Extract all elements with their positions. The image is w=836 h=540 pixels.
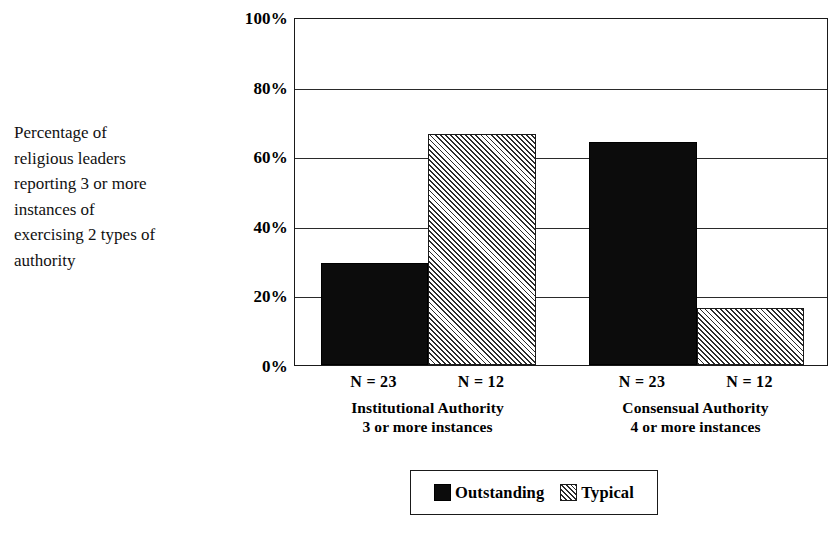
y-tick-0: 0% <box>214 358 288 375</box>
legend-label-outstanding: Outstanding <box>455 484 544 502</box>
group-label-institutional: Institutional Authority 3 or more instan… <box>300 398 555 436</box>
chart-legend: Outstanding Typical <box>410 470 658 515</box>
bar-institutional-outstanding[interactable] <box>321 263 428 365</box>
chart-page: Percentage of religious leaders reportin… <box>0 0 836 540</box>
y-tick-100: 100% <box>214 10 288 27</box>
group-label-consensual-line1: Consensual Authority <box>622 399 768 416</box>
group-label-institutional-line2: 3 or more instances <box>300 417 555 436</box>
bar-consensual-typical[interactable] <box>697 308 804 365</box>
group-label-consensual-line2: 4 or more instances <box>568 417 823 436</box>
legend-label-typical: Typical <box>581 484 634 502</box>
legend-entry-typical[interactable]: Typical <box>560 484 634 502</box>
y-tick-20: 20% <box>214 288 288 305</box>
legend-swatch-solid-icon <box>434 484 451 501</box>
bar-institutional-typical[interactable] <box>428 134 536 365</box>
y-tick-80: 80% <box>214 80 288 97</box>
legend-entry-outstanding[interactable]: Outstanding <box>434 484 544 502</box>
n-label-institutional-typical: N = 12 <box>427 372 535 392</box>
group-label-institutional-line1: Institutional Authority <box>351 399 504 416</box>
plot-area <box>294 18 828 366</box>
gridline-40 <box>295 228 827 229</box>
group-label-consensual: Consensual Authority 4 or more instances <box>568 398 823 436</box>
gridline-60 <box>295 158 827 159</box>
y-axis-description-label: Percentage of religious leaders reportin… <box>14 120 229 273</box>
n-label-institutional-outstanding: N = 23 <box>320 372 427 392</box>
y-axis-tick-labels: 100% 80% 60% 40% 20% 0% <box>208 18 288 366</box>
y-tick-60: 60% <box>214 149 288 166</box>
n-label-consensual-typical: N = 12 <box>696 372 803 392</box>
legend-swatch-hatch-icon <box>560 484 577 501</box>
y-tick-40: 40% <box>214 219 288 236</box>
bar-consensual-outstanding[interactable] <box>589 142 697 365</box>
n-label-consensual-outstanding: N = 23 <box>588 372 696 392</box>
gridline-80 <box>295 89 827 90</box>
